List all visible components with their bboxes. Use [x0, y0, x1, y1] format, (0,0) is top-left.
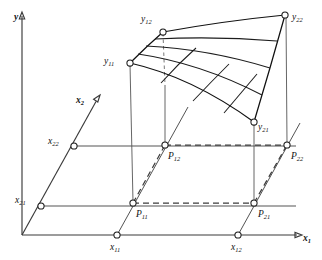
tick-label-x21: x21	[14, 195, 26, 206]
dashed-P11-P12	[133, 145, 165, 203]
surface-label-y21: y21	[257, 122, 269, 133]
surface-label-y22: y22	[291, 12, 303, 23]
marker-x21[interactable]	[38, 203, 44, 209]
marker-P21[interactable]	[251, 200, 257, 206]
marker-P12[interactable]	[162, 142, 168, 148]
mesh-edge-y11-y12	[130, 32, 163, 63]
drop-line-y11-P11	[130, 64, 133, 202]
surface-label-y12: y12	[140, 14, 152, 25]
marker-x12[interactable]	[235, 232, 241, 238]
marker-x11[interactable]	[114, 232, 120, 238]
x2-axis-line	[22, 102, 96, 236]
diagram-canvas: y x1 x2 x11 x12 x21 x22 P11	[0, 0, 322, 260]
axis-label-y: y	[13, 12, 19, 22]
marker-y11[interactable]	[127, 60, 133, 66]
labels-group: y x1 x2 x11 x12 x21 x22 P11	[13, 12, 311, 253]
base-line-x11	[117, 107, 188, 235]
axis-label-x1: x1	[302, 233, 311, 244]
mesh-edge-y12-y22	[163, 15, 285, 32]
point-label-P21: P21	[257, 209, 270, 220]
marker-y21[interactable]	[251, 119, 257, 125]
dashed-P21-P22	[254, 145, 287, 203]
tick-label-x22: x22	[47, 136, 59, 147]
mesh-edge-y11-y21	[130, 63, 254, 122]
point-label-P22: P22	[290, 151, 304, 162]
point-label-P12: P12	[167, 151, 181, 162]
marker-P22[interactable]	[284, 142, 290, 148]
mesh-line-v2	[193, 64, 229, 101]
surface-patch-group	[130, 15, 285, 122]
marker-x22[interactable]	[71, 143, 77, 149]
point-label-P11: P11	[135, 209, 148, 220]
x2-axis-arrowhead	[94, 95, 100, 102]
patch-footprint-group	[133, 145, 287, 203]
mesh-line-u2	[146, 46, 270, 68]
figure-container: y x1 x2 x11 x12 x21 x22 P11	[0, 0, 322, 260]
marker-y12[interactable]	[160, 29, 166, 35]
drop-lines-group	[130, 16, 287, 202]
marker-P11[interactable]	[130, 200, 136, 206]
drop-line-y22-P22	[286, 16, 287, 144]
mesh-edge-y21-y22	[254, 15, 285, 122]
markers-group	[38, 12, 290, 238]
tick-label-x11: x11	[109, 242, 120, 253]
surface-label-y11: y11	[103, 56, 114, 67]
marker-y22[interactable]	[282, 12, 288, 18]
axis-label-x2: x2	[75, 95, 85, 106]
tick-label-x12: x12	[230, 242, 242, 253]
mesh-line-u3	[155, 38, 277, 41]
